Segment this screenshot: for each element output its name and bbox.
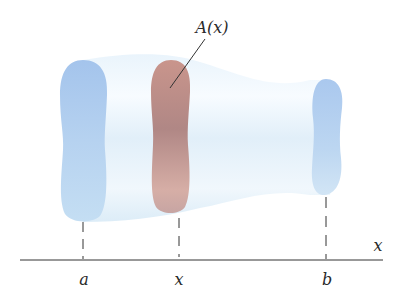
tick-label-a: a [79, 270, 89, 289]
cross-section-label: A(x) [193, 18, 228, 37]
axis-label: x [373, 236, 382, 255]
tick-label-x: x [174, 270, 183, 289]
solid-volume-diagram: A(x) x a x b [0, 0, 414, 305]
end-cap-b [312, 79, 343, 195]
solid-body [83, 54, 338, 222]
end-cap-a [60, 60, 107, 221]
tick-label-b: b [322, 270, 332, 289]
cross-section-A-x [151, 60, 190, 213]
